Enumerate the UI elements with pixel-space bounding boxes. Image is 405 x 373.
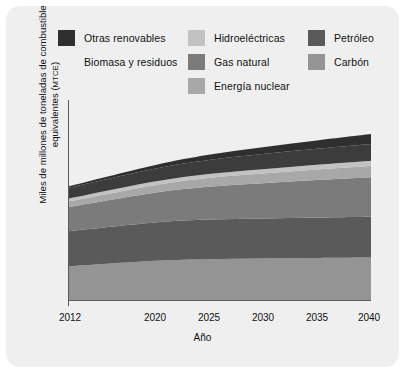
x-tick-2030: 2030 [252,312,274,323]
legend-item-hidroelectricas: Hidroeléctricas [188,30,285,46]
legend-label-gas-natural: Gas natural [214,56,269,68]
legend-label-biomasa-y-residuos: Biomasa y residuos [84,56,177,68]
legend-item-petroleo: Petróleo [308,30,374,46]
x-tick-2025: 2025 [198,312,220,323]
legend-swatch-hidroelectricas [188,30,205,46]
legend-swatch-carbon [308,54,325,70]
legend-swatch-gas-natural [188,54,205,70]
legend-item-otras-renovables: Otras renovables [58,30,166,46]
legend-swatch-energia-nuclear [188,78,205,94]
chart-legend: Otras renovables Biomasa y residuos Hidr… [6,6,399,102]
x-tick-2012: 2012 [59,312,81,323]
legend-label-hidroelectricas: Hidroeléctricas [214,32,285,44]
y-axis-label-line2-end: ) [49,62,60,65]
plot-area [68,100,371,308]
x-axis-label: Año [6,332,399,343]
x-axis-ticks: 2012 2020 2025 2030 2035 2040 [62,312,377,328]
x-tick-2040: 2040 [358,312,380,323]
legend-item-gas-natural: Gas natural [188,54,269,70]
y-axis-label-line1: Miles de millones de toneladas de combus… [37,5,48,203]
x-tick-2020: 2020 [144,312,166,323]
legend-label-carbon: Carbón [334,56,369,68]
legend-label-petroleo: Petróleo [334,32,374,44]
figure-panel: Otras renovables Biomasa y residuos Hidr… [6,6,399,367]
y-axis-label: Miles de millones de toneladas de combus… [37,0,62,220]
x-tick-2035: 2035 [306,312,328,323]
y-axis-label-unit: MTCE [51,65,60,87]
y-axis-label-line2: equivalentes ( [49,87,60,147]
legend-label-otras-renovables: Otras renovables [84,32,166,44]
legend-label-energia-nuclear: Energía nuclear [214,80,290,92]
legend-item-energia-nuclear: Energía nuclear [188,78,290,94]
legend-item-biomasa-y-residuos: Biomasa y residuos [58,54,177,70]
stacked-area-chart [68,100,371,308]
legend-item-carbon: Carbón [308,54,369,70]
area-series-group [68,134,371,300]
area-carb-n [68,258,371,300]
legend-swatch-petroleo [308,30,325,46]
